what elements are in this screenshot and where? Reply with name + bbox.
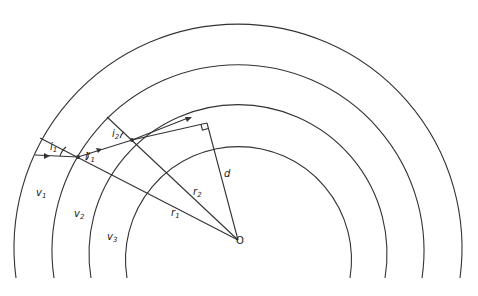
arc-2 bbox=[52, 65, 424, 278]
angle-i1-label: i1 bbox=[50, 141, 57, 154]
distance-d-label: d bbox=[224, 168, 231, 179]
arc-3 bbox=[89, 105, 387, 278]
angle-i2-label: i2 bbox=[112, 128, 120, 141]
center-o-label: O bbox=[236, 235, 244, 246]
radius-r2 bbox=[107, 117, 238, 240]
layer-v2-label: v2 bbox=[74, 208, 85, 221]
refraction-diagram: i1 i'1 i2 v1 v2 v3 r1 r2 d O bbox=[0, 0, 478, 296]
radius-r1 bbox=[40, 138, 238, 240]
distance-d bbox=[207, 123, 238, 240]
radius-r2-label: r2 bbox=[193, 186, 202, 199]
layer-v1-label: v1 bbox=[36, 187, 46, 200]
layer-v3-label: v3 bbox=[107, 231, 117, 244]
